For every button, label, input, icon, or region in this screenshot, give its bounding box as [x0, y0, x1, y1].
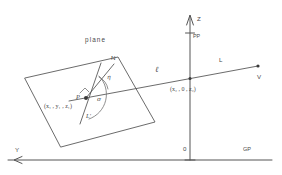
- perspective-projection-diagram: plane Z PP Y 0 GP V L ℓ N P L' η σ (x₁ ,…: [0, 0, 282, 175]
- y-axis-label: Y: [15, 147, 19, 153]
- angle-sigma-label: σ: [97, 96, 101, 102]
- normal-vector-N: [86, 64, 114, 98]
- z-axis-intersection-marker: [189, 77, 192, 80]
- z-axis-intersection-coordinates: (x₂ , 0 , z₂): [170, 86, 196, 92]
- normal-label: N: [111, 55, 115, 61]
- line-L-prime-label: L': [86, 113, 91, 119]
- z-axis-label: Z: [197, 16, 201, 22]
- point-P-label: P: [76, 94, 80, 100]
- diagram-canvas: [0, 0, 282, 175]
- point-P-marker: [84, 96, 88, 100]
- plane-quadrilateral: [25, 57, 155, 147]
- point-P-coordinates: (x₁ , y₁ , z₁): [44, 103, 72, 109]
- principal-point-label: PP: [193, 34, 200, 39]
- vanishing-point-label: V: [257, 74, 261, 80]
- vanishing-point-marker: [256, 64, 259, 67]
- origin-label: 0: [183, 146, 186, 152]
- line-small-l-label: ℓ: [155, 66, 158, 74]
- right-angle-marker-icon: [80, 88, 89, 93]
- angle-eta-label: η: [107, 74, 111, 80]
- plane-label: plane: [85, 37, 106, 43]
- line-L-label: L: [219, 57, 222, 63]
- ground-plane-label: GP: [243, 147, 251, 153]
